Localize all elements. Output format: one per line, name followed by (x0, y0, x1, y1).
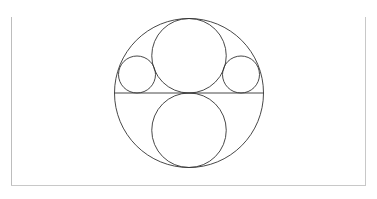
circles-diagram (0, 0, 377, 199)
top-inner-circle (152, 19, 227, 94)
left-small-circle (119, 56, 156, 93)
right-small-circle (223, 56, 260, 93)
bottom-inner-circle (152, 93, 227, 168)
